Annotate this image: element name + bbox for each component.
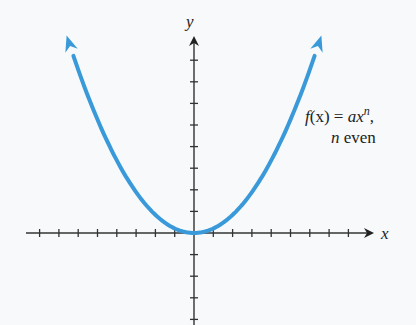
graph: y x f(x) = axn, n even [0, 0, 416, 325]
x-axis-label: x [380, 224, 389, 243]
curve-arrow-left-icon [65, 35, 77, 52]
n-even-label: n even [331, 128, 376, 147]
function-label: f(x) = axn, [305, 104, 374, 126]
y-axis-label: y [184, 12, 194, 31]
curve-arrow-right-icon [310, 35, 322, 52]
